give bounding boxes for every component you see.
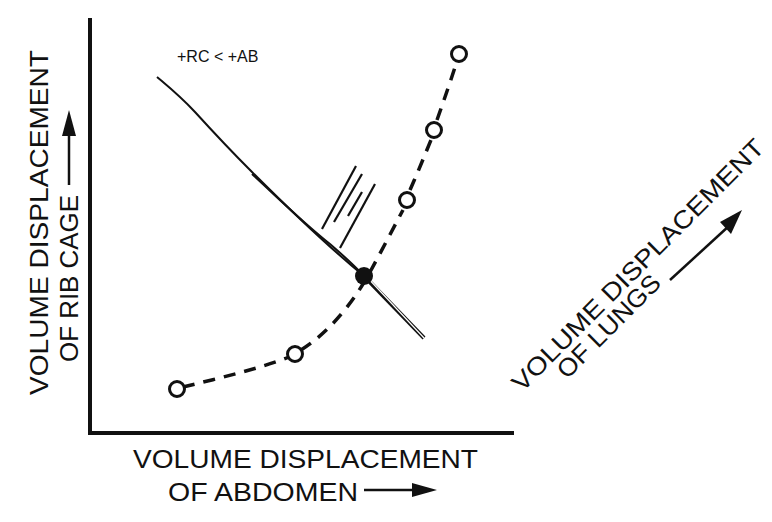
intersection-point (355, 267, 373, 285)
diagram-canvas: +RC < +AB VOLUME DISPLACEMENT OF ABDOMEN… (0, 0, 772, 522)
x-axis-label-line1: VOLUME DISPLACEMENT (133, 445, 478, 473)
diagonal-label-line1: VOLUME DISPLACEMENT (506, 133, 770, 397)
y-axis-label-line2: OF RIB CAGE (55, 195, 83, 362)
y-axis-label-line1: VOLUME DISPLACEMENT (25, 50, 53, 395)
hatch-marks (322, 166, 375, 248)
data-point-4 (427, 123, 442, 138)
data-point-1 (170, 382, 185, 397)
y-axis-arrow-icon (62, 110, 76, 185)
annotation-label: +RC < +AB (177, 48, 258, 65)
isovolume-line (157, 77, 424, 338)
data-point-2 (288, 347, 303, 362)
relaxation-curve (183, 64, 456, 387)
data-point-3 (400, 193, 415, 208)
data-points (170, 47, 467, 397)
data-point-5 (452, 47, 467, 62)
x-axis-label-line2: OF ABDOMEN (168, 478, 358, 506)
x-axis-arrow-icon (364, 483, 437, 497)
